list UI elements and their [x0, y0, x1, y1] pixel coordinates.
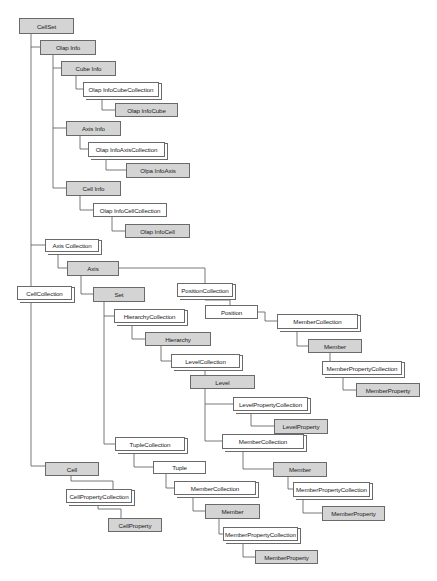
- node-member-property-collection-tuple: MemberPropertyCollection: [223, 527, 298, 541]
- node-axis-info: Axis Info: [66, 121, 121, 136]
- node-hierarchy: Hierarchy: [145, 332, 211, 346]
- node-cell-collection: CellCollection: [17, 286, 72, 300]
- node-level-collection: LevelCollection: [171, 354, 240, 368]
- node-cellset: CellSet: [19, 18, 74, 34]
- node-position: Position: [205, 305, 258, 319]
- node-olpa-info-axis: Olpa InfoAxis: [126, 163, 190, 178]
- node-olap-info: Olap Info: [40, 40, 96, 55]
- node-cell-info: Cell Info: [66, 181, 121, 196]
- node-set: Set: [93, 287, 145, 302]
- node-level-property-collection: LevelPropertyCollection: [233, 397, 308, 411]
- node-cell-property: CellProperty: [108, 518, 162, 532]
- node-position-collection: PositionCollection: [177, 283, 233, 297]
- node-member-position: Member: [308, 339, 362, 353]
- node-tuple: Tuple: [153, 461, 206, 474]
- node-member-property-collection-position: MemberPropertyCollection: [322, 361, 402, 375]
- node-cell-property-collection: CellPropertyCollection: [66, 489, 132, 503]
- node-axis: Axis: [67, 261, 119, 276]
- node-olap-info-cube-collection: Olap InfoCubeCollection: [83, 82, 159, 97]
- node-olap-info-cell: Olap InfoCell: [125, 224, 190, 238]
- node-cube-info: Cube Info: [61, 61, 116, 76]
- node-member-property-tuple: MemberProperty: [255, 550, 318, 564]
- node-member-collection-tuple: MemberCollection: [174, 481, 256, 495]
- node-member-property-position: MemberProperty: [356, 383, 420, 397]
- node-level: Level: [190, 375, 255, 389]
- node-member-property-collection-level: MemberPropertyCollection: [293, 482, 370, 497]
- node-olap-info-axis-collection: Olap InfoAxisCollection: [88, 142, 165, 157]
- node-olap-info-cell-collection: Olap InfoCellCollection: [93, 203, 167, 217]
- node-member-tuple: Member: [205, 504, 260, 519]
- node-olap-info-cube: Olap InfoCube: [115, 103, 178, 117]
- node-member-collection-position: MemberCollection: [277, 314, 358, 329]
- node-level-property: LevelProperty: [274, 419, 328, 434]
- node-hierarchy-collection: HierarchyCollection: [114, 309, 185, 323]
- node-member-level: Member: [273, 462, 327, 477]
- object-model-diagram: CellSet Olap Info Cube Info Olap InfoCub…: [0, 0, 437, 581]
- node-member-property-level: MemberProperty: [322, 506, 385, 521]
- node-member-collection-level: MemberCollection: [222, 434, 304, 449]
- node-axis-collection: Axis Collection: [45, 239, 99, 252]
- node-cell: Cell: [45, 462, 99, 476]
- node-tuple-collection: TupleCollection: [115, 437, 185, 451]
